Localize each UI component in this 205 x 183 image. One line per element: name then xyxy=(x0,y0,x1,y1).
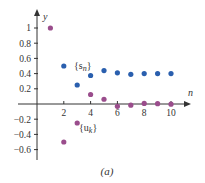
y-tick-label: −0.4 xyxy=(14,130,31,140)
y-axis-arrow-icon xyxy=(34,9,40,16)
data-point-s-n xyxy=(75,82,80,87)
data-point-s-n xyxy=(142,71,147,76)
y-tick-label: −0.2 xyxy=(14,115,31,125)
data-point-s-n xyxy=(155,71,160,76)
y-axis-label: y xyxy=(42,11,48,22)
axes xyxy=(18,9,191,160)
x-tick-label: 8 xyxy=(142,108,147,118)
data-point-u-k xyxy=(142,101,147,106)
scatter-chart: 10.80.60.40.2−0.2−0.4−0.6246810 y n {sn}… xyxy=(0,0,205,183)
data-point-s-n xyxy=(101,68,106,73)
y-tick-label: 0.8 xyxy=(19,39,31,49)
data-point-s-n xyxy=(88,73,93,78)
x-tick-label: 6 xyxy=(115,108,120,118)
data-point-u-k xyxy=(128,103,133,108)
legend-label-u-k: {uk} xyxy=(79,122,97,135)
data-points xyxy=(48,25,174,144)
y-tick-label: 1 xyxy=(26,23,31,33)
data-point-s-n xyxy=(168,71,173,76)
tick-marks: 10.80.60.40.2−0.2−0.4−0.6246810 xyxy=(14,23,176,155)
x-tick-label: 2 xyxy=(61,108,66,118)
y-tick-label: 0.2 xyxy=(19,84,31,94)
data-point-u-k xyxy=(101,97,106,102)
labels: y n {sn} {uk} (a) xyxy=(42,11,193,178)
x-tick-label: 4 xyxy=(88,108,93,118)
y-tick-label: 0.4 xyxy=(19,69,31,79)
legend-label-s-n: {sn} xyxy=(74,60,92,73)
data-point-u-k xyxy=(61,139,66,144)
x-axis-label: n xyxy=(188,87,193,98)
x-tick-label: 10 xyxy=(166,108,176,118)
y-tick-label: 0.6 xyxy=(19,54,31,64)
data-point-s-n xyxy=(115,70,120,75)
data-point-u-k xyxy=(168,102,173,107)
x-axis-arrow-icon xyxy=(184,101,191,107)
figure-caption: (a) xyxy=(101,165,114,178)
data-point-s-n xyxy=(128,72,133,77)
data-point-s-n xyxy=(61,63,66,68)
data-point-u-k xyxy=(115,104,120,109)
data-point-u-k xyxy=(155,101,160,106)
y-tick-label: −0.6 xyxy=(14,145,31,155)
data-point-u-k xyxy=(88,92,93,97)
data-point-u-k xyxy=(48,25,53,30)
